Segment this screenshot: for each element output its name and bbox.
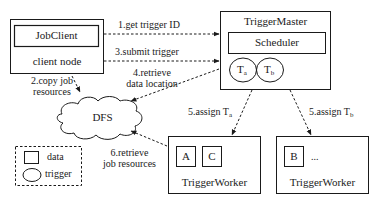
trigger-master-label: TriggerMaster: [220, 16, 331, 27]
edge-4-label-line2: data location: [117, 79, 187, 89]
edge-5-assign-tb: [290, 90, 311, 135]
client-node-label: client node: [10, 56, 104, 67]
data-a-label: A: [176, 151, 196, 162]
scheduler-label: Scheduler: [228, 37, 326, 48]
more-data-ellipsis: ...: [311, 152, 319, 162]
edge-5a-label: 5.assign Ta: [188, 107, 232, 119]
edge-4-label-line1: 4.retrieve: [117, 68, 187, 78]
edge-5b-label: 5.assign Tb: [309, 107, 353, 119]
edge-3-label: 3.submit trigger: [115, 47, 179, 57]
edge-6-label-line2: job resources: [92, 159, 167, 169]
edge-6-label-line1: 6.retrieve: [92, 148, 167, 158]
edge-1-label: 1.get trigger ID: [118, 20, 180, 30]
trigger-worker-2-label: TriggerWorker: [276, 177, 369, 188]
data-c-label: C: [202, 151, 222, 162]
edge-6-retrieve-job-resources: [131, 131, 167, 146]
legend-data-label: data: [47, 152, 64, 162]
edge-2-label-line2: resources: [22, 87, 82, 97]
edge-2-label-line1: 2.copy job: [22, 76, 82, 86]
dfs-label: DFS: [80, 112, 125, 123]
trigger-worker-1-label: TriggerWorker: [168, 177, 261, 188]
legend-trigger-ellipse-icon: [23, 169, 41, 182]
edge-5-assign-ta: [232, 90, 252, 135]
jobclient-label: JobClient: [14, 30, 99, 41]
architecture-diagram: JobClient client node TriggerMaster Sche…: [0, 0, 378, 201]
legend-data-square-icon: [25, 152, 39, 164]
data-b-label: B: [284, 151, 304, 162]
trigger-tb-label: Tb: [264, 64, 274, 77]
legend-trigger-label: trigger: [45, 169, 72, 179]
trigger-ta-label: Ta: [237, 64, 247, 77]
